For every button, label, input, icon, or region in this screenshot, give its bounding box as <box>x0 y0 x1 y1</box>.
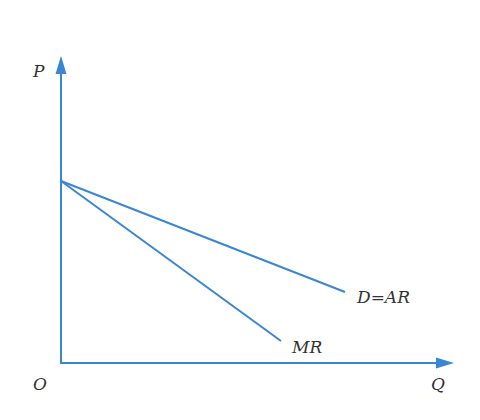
origin-label: O <box>33 374 47 394</box>
demand-ar-label: D=AR <box>356 287 410 307</box>
demand-ar-line <box>61 181 345 292</box>
mr-label: MR <box>291 337 322 357</box>
y-axis-label: P <box>32 61 45 81</box>
mr-line <box>61 181 281 341</box>
x-axis-label: Q <box>431 374 445 394</box>
x-axis-arrow-icon <box>436 358 454 369</box>
revenue-diagram: P O Q D=AR MR <box>0 0 480 420</box>
y-axis-arrow-icon <box>56 56 67 74</box>
